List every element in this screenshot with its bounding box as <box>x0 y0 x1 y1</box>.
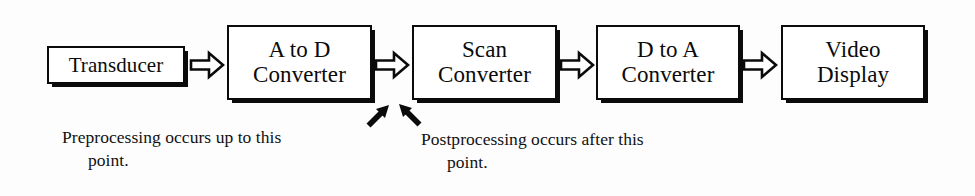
node-label-line-1: D to A <box>637 38 699 62</box>
process-node-a-to-d-converter: A to D Converter <box>227 25 372 100</box>
process-node-d-to-a-converter: D to A Converter <box>596 25 740 100</box>
block-arrow-right-icon <box>374 50 410 80</box>
node-label-line-2: Display <box>817 63 889 87</box>
node-label-line-2: Converter <box>438 63 531 87</box>
arrow-up-left-icon <box>396 100 426 130</box>
node-label-line-1: Video <box>825 38 880 62</box>
node-label-line-2: Converter <box>253 63 346 87</box>
caption-line-2: point. <box>62 149 281 172</box>
node-label-line-2: Converter <box>622 63 715 87</box>
caption-preprocessing: Preprocessing occurs up to this point. <box>62 126 281 173</box>
caption-postprocessing: Postprocessing occurs after this point. <box>421 128 644 175</box>
signal-chain-diagram: Transducer A to D Converter Scan Convert… <box>0 0 975 196</box>
caption-line-1: Postprocessing occurs after this <box>421 129 644 149</box>
process-node-scan-converter: Scan Converter <box>412 25 557 100</box>
process-node-transducer: Transducer <box>47 46 185 84</box>
node-label-line-1: Transducer <box>69 54 164 76</box>
arrow-up-right-icon <box>362 101 392 131</box>
process-node-video-display: Video Display <box>781 25 925 100</box>
caption-line-1: Preprocessing occurs up to this <box>62 127 281 147</box>
block-arrow-right-icon <box>742 50 778 80</box>
caption-line-2: point. <box>421 151 644 174</box>
block-arrow-right-icon <box>559 50 595 80</box>
node-label-line-1: A to D <box>269 38 331 62</box>
node-label-line-1: Scan <box>462 38 507 62</box>
block-arrow-right-icon <box>189 50 225 80</box>
